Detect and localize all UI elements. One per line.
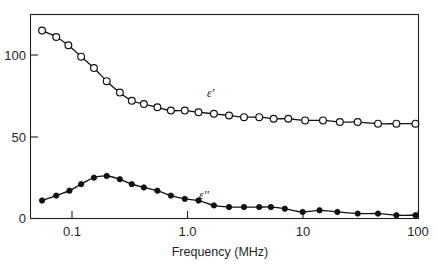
data-point xyxy=(78,181,83,186)
y-tick-label-50: 50 xyxy=(12,130,26,145)
data-point xyxy=(53,34,60,41)
data-point xyxy=(394,213,399,218)
data-point xyxy=(67,188,72,193)
data-point xyxy=(116,89,123,96)
data-point xyxy=(355,211,360,216)
data-point xyxy=(211,203,216,208)
data-point xyxy=(65,42,72,49)
data-point xyxy=(155,188,160,193)
data-point xyxy=(226,112,233,119)
data-point xyxy=(393,120,400,127)
x-tick-label-1-0: 1.0 xyxy=(178,224,196,239)
data-point xyxy=(39,27,46,34)
data-point xyxy=(302,117,309,124)
data-point xyxy=(154,104,161,111)
data-point xyxy=(375,211,380,216)
data-point xyxy=(375,120,382,127)
data-point xyxy=(54,193,59,198)
data-point xyxy=(300,209,305,214)
data-point xyxy=(336,119,343,126)
data-point xyxy=(270,115,277,122)
dielectric-spectrum-figure: 0 50 100 0.1 1.0 10 100 Frequency (MHz) … xyxy=(0,0,438,268)
chart-canvas: 0 50 100 0.1 1.0 10 100 Frequency (MHz) … xyxy=(0,0,438,268)
data-point xyxy=(226,204,231,209)
data-point xyxy=(91,175,96,180)
data-point xyxy=(241,114,248,121)
y-tick-label-0: 0 xyxy=(19,211,26,226)
data-point xyxy=(78,53,85,60)
data-point xyxy=(104,173,109,178)
data-point xyxy=(285,115,292,122)
data-point xyxy=(241,204,246,209)
data-point xyxy=(335,209,340,214)
series-label-eps-double-prime: ε'' xyxy=(199,188,209,202)
data-point xyxy=(168,193,173,198)
data-point xyxy=(413,213,418,218)
series-label-eps-prime: ε' xyxy=(207,86,215,100)
data-point xyxy=(256,114,263,121)
data-point xyxy=(39,198,44,203)
data-point xyxy=(182,196,187,201)
data-point xyxy=(282,206,287,211)
data-point xyxy=(141,185,146,190)
data-point xyxy=(128,97,135,104)
data-point xyxy=(91,65,98,72)
x-tick-label-10: 10 xyxy=(296,224,310,239)
data-point xyxy=(268,204,273,209)
data-point xyxy=(129,181,134,186)
data-point xyxy=(117,177,122,182)
data-point xyxy=(317,208,322,213)
data-point xyxy=(354,119,361,126)
x-tick-label-0-1: 0.1 xyxy=(63,224,81,239)
data-point xyxy=(167,107,174,114)
data-point xyxy=(257,204,262,209)
data-point xyxy=(140,101,147,108)
data-point xyxy=(181,107,188,114)
data-point xyxy=(195,109,202,116)
y-tick-label-100: 100 xyxy=(4,48,26,63)
x-tick-label-100: 100 xyxy=(407,224,429,239)
data-point xyxy=(211,110,218,117)
data-point xyxy=(320,117,327,124)
data-point xyxy=(412,120,419,127)
x-axis-title: Frequency (MHz) xyxy=(172,245,269,259)
data-point xyxy=(103,78,110,85)
